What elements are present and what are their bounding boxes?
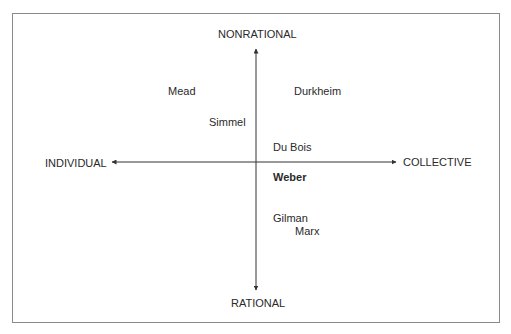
theorist-du-bois: Du Bois — [273, 141, 312, 153]
theorist-gilman: Gilman — [273, 212, 308, 224]
theorist-weber: Weber — [273, 171, 306, 183]
theorist-simmel: Simmel — [209, 116, 246, 128]
theorist-marx: Marx — [295, 225, 319, 237]
theorist-durkheim: Durkheim — [294, 85, 341, 97]
axis-label-individual: INDIVIDUAL — [45, 157, 107, 169]
theorist-mead: Mead — [168, 85, 196, 97]
axis-label-nonrational: NONRATIONAL — [218, 28, 297, 40]
axis-label-collective: COLLECTIVE — [403, 156, 471, 168]
axis-label-rational: RATIONAL — [231, 297, 285, 309]
